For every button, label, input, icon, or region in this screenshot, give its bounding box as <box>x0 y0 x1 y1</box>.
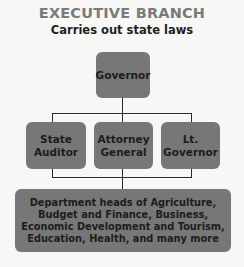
state-auditor-label-line1: State <box>34 133 78 146</box>
connector-auditor-down <box>52 169 53 177</box>
department-heads-line2: Budget and Finance, Business, <box>21 209 225 221</box>
diagram-title: EXECUTIVE BRANCH <box>0 5 244 21</box>
connector-attorney-up <box>122 113 123 122</box>
connector-bottom-horizontal <box>52 177 192 178</box>
connector-attorney-down <box>122 169 123 189</box>
department-heads-line4: Education, Health, and many more <box>21 233 225 245</box>
department-heads-box: Department heads of Agriculture, Budget … <box>15 189 231 252</box>
lt-governor-label-line1: Lt. <box>163 133 218 146</box>
governor-box: Governor <box>96 52 150 98</box>
lt-governor-label-line2: Governor <box>163 146 218 159</box>
attorney-general-box: Attorney General <box>94 122 153 169</box>
state-auditor-box: State Auditor <box>26 122 86 169</box>
connector-governor-down <box>122 98 123 114</box>
connector-ltgov-up <box>191 113 192 122</box>
governor-label: Governor <box>96 69 151 82</box>
state-auditor-label-line2: Auditor <box>34 146 78 159</box>
department-heads-line3: Economic Development and Tourism, <box>21 221 225 233</box>
lt-governor-box: Lt. Governor <box>161 122 220 169</box>
connector-auditor-up <box>52 113 53 122</box>
attorney-general-label-line1: Attorney <box>98 133 150 146</box>
attorney-general-label-line2: General <box>98 146 150 159</box>
connector-ltgov-down <box>191 169 192 177</box>
department-heads-line1: Department heads of Agriculture, <box>21 197 225 209</box>
diagram-subtitle: Carries out state laws <box>0 23 244 37</box>
